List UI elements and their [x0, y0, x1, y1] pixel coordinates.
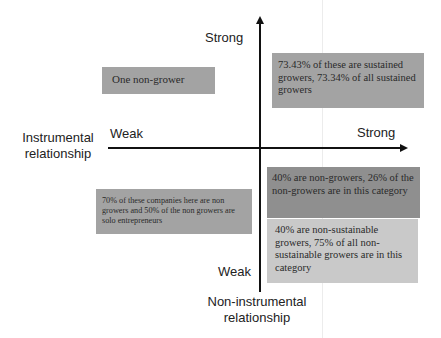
- vertical-axis-title-line2: relationship: [182, 310, 332, 326]
- quadrant-top-left-box: One non-grower: [102, 67, 215, 94]
- vertical-axis-top-label: Strong: [205, 30, 243, 45]
- quadrant-bottom-left-box: 70% of these companies here are non grow…: [96, 189, 252, 234]
- vertical-axis-title-line1: Non-instrumental: [182, 294, 332, 310]
- vertical-axis-bottom-label: Weak: [218, 264, 251, 279]
- quadrant-bottom-right-lower-box: 40% are non-sustainable growers, 75% of …: [267, 219, 418, 283]
- horizontal-axis-right-label: Strong: [357, 125, 395, 140]
- arrow-right-icon: [400, 144, 408, 152]
- quadrant-bottom-right-upper-box: 40% are non-growers, 26% of the non-grow…: [267, 167, 420, 218]
- vertical-axis: [259, 22, 261, 292]
- horizontal-axis-title: Instrumental relationship: [18, 130, 98, 161]
- horizontal-axis-left-label: Weak: [110, 126, 143, 141]
- quadrant-top-right-box: 73.43% of these are sustained growers, 7…: [272, 53, 424, 108]
- horizontal-axis: [108, 147, 402, 149]
- horizontal-axis-title-line2: relationship: [18, 146, 98, 162]
- vertical-axis-title: Non-instrumental relationship: [182, 294, 332, 325]
- arrow-up-icon: [256, 16, 264, 24]
- horizontal-axis-title-line1: Instrumental: [18, 130, 98, 146]
